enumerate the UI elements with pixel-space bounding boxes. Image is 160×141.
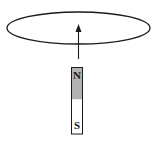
upward-arrow-icon bbox=[76, 24, 82, 59]
north-pole-label: N bbox=[72, 70, 83, 81]
south-pole-label: S bbox=[72, 120, 83, 131]
